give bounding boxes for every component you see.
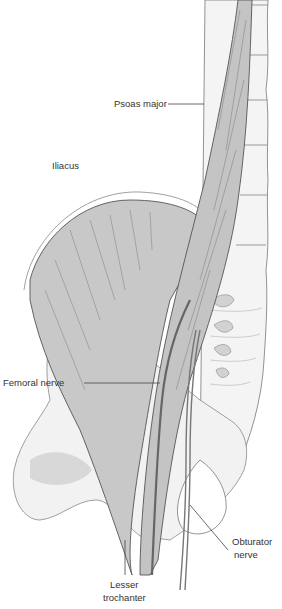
label-psoas-major: Psoas major — [114, 98, 167, 109]
label-obturator-line2: nerve — [234, 549, 258, 560]
label-femoral-nerve: Femoral nerve — [3, 377, 64, 388]
psoas-iliacus-diagram: Psoas major Iliacus Femoral nerve Obtura… — [0, 0, 282, 609]
label-iliacus: Iliacus — [52, 160, 79, 171]
label-lesser-line1: Lesser — [110, 579, 139, 590]
label-lesser-line2: trochanter — [103, 592, 146, 603]
label-obturator-line1: Obturator — [232, 536, 272, 547]
